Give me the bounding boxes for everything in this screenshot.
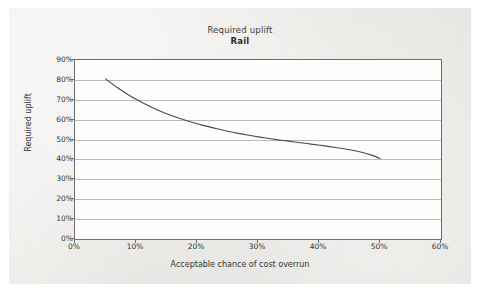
x-tick-label: 20%	[176, 242, 216, 251]
x-tick-label: 50%	[359, 242, 399, 251]
y-tick-label: 50%	[39, 135, 73, 144]
x-tick-label: 60%	[420, 242, 460, 251]
x-tick-label: 10%	[115, 242, 155, 251]
chart-title: Required uplift	[9, 25, 471, 36]
y-tick-label: 70%	[39, 95, 73, 104]
y-tick-label: 10%	[39, 214, 73, 223]
scanned-page: Required uplift Rail Required uplift 0%1…	[9, 8, 471, 284]
y-tick-label: 0%	[39, 234, 73, 243]
x-axis-title: Acceptable chance of cost overrun	[9, 260, 471, 269]
y-tick-label: 30%	[39, 174, 73, 183]
y-axis-title: Required uplift	[24, 68, 33, 178]
chart-subtitle: Rail	[9, 36, 471, 47]
series-line-rail	[75, 60, 441, 239]
x-tick-label: 40%	[298, 242, 338, 251]
x-tick-label: 30%	[237, 242, 277, 251]
y-tick-label: 90%	[39, 55, 73, 64]
x-tick-label: 0%	[54, 242, 94, 251]
plot-area	[74, 59, 442, 240]
y-tick-label: 80%	[39, 75, 73, 84]
y-tick-label: 60%	[39, 115, 73, 124]
title-block: Required uplift Rail	[9, 25, 471, 47]
y-tick-label: 40%	[39, 154, 73, 163]
y-tick-label: 20%	[39, 194, 73, 203]
